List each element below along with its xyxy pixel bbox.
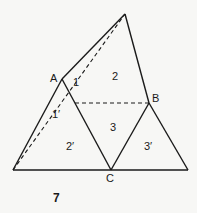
edge-A-C: [62, 79, 111, 170]
diagram-canvas: A B C 1 2 3 1′ 2′ 3′ 7: [0, 0, 197, 213]
edge-left-lower: [13, 79, 62, 170]
edge-right-lower: [149, 103, 188, 170]
triangle-dissection-diagram: A B C 1 2 3 1′ 2′ 3′ 7: [0, 0, 197, 213]
region-label-3-prime: 3′: [144, 140, 152, 152]
solid-edges: [13, 14, 188, 170]
region-label-1-prime: 1′: [52, 108, 60, 120]
vertex-label-A: A: [50, 72, 58, 84]
edge-top-right: [125, 14, 149, 103]
region-label-2: 2: [112, 70, 118, 82]
vertex-label-C: C: [106, 172, 114, 184]
edge-C-B: [111, 103, 149, 170]
figure-number: 7: [53, 191, 60, 205]
dashed-edges: [13, 14, 149, 170]
region-label-3: 3: [110, 121, 116, 133]
vertex-label-B: B: [152, 92, 159, 104]
region-label-1: 1: [73, 76, 79, 88]
region-label-2-prime: 2′: [66, 140, 74, 152]
